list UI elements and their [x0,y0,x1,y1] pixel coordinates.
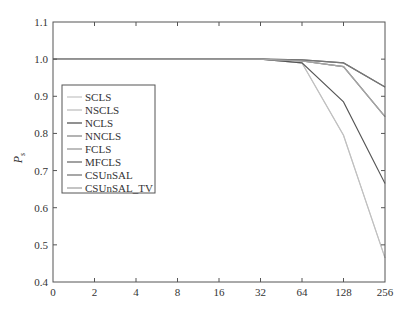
series-line-mfcls [53,59,385,87]
legend-item-label: FCLS [85,143,111,155]
x-tick-label: 8 [175,286,181,298]
legend-item-label: CSUnSAL [85,169,133,181]
x-tick-label: 256 [377,286,394,298]
x-tick-label: 0 [50,286,56,298]
x-tick-label: 2 [92,286,98,298]
x-tick-label: 32 [255,286,266,298]
x-tick-label: 4 [133,286,139,298]
y-tick-label: 0.8 [34,127,48,139]
legend: SCLSNSCLSNCLSNNCLSFCLSMFCLSCSUnSALCSUnSA… [62,85,155,194]
y-tick-label: 0.6 [34,202,48,214]
x-tick-label: 64 [297,286,309,298]
y-tick-label: 0.5 [34,239,48,251]
y-tick-label: 0.4 [34,276,48,288]
y-tick-label: 1.1 [34,16,48,28]
x-tick-label: 16 [214,286,226,298]
y-tick-label: 0.9 [34,90,48,102]
series-line-csunsal [53,59,385,87]
y-tick-label: 1.0 [34,53,48,65]
line-chart: 0248163264128256 0.40.50.60.70.80.91.01.… [0,0,412,312]
legend-item-label: NSCLS [85,104,119,116]
legend-item-label: NCLS [85,117,113,129]
y-tick-label: 0.7 [34,165,48,177]
y-axis-label: Ps [11,153,27,164]
legend-item-label: MFCLS [85,156,121,168]
legend-item-label: CSUnSAL_TV [85,182,153,194]
legend-item-label: SCLS [85,91,111,103]
x-tick-label: 128 [335,286,352,298]
legend-item-label: NNCLS [85,130,121,142]
